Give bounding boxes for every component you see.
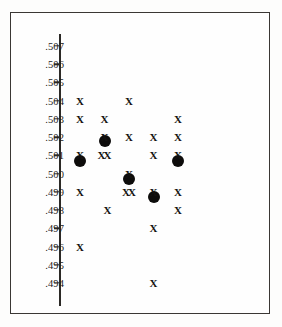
data-point-x-marker: X <box>150 150 158 161</box>
y-axis-tick-mark <box>54 45 60 46</box>
data-point-x-marker: X <box>76 186 84 197</box>
data-point-x-marker: X <box>76 113 84 124</box>
y-axis-tick-mark <box>54 118 60 119</box>
y-axis-tick-mark <box>54 82 60 83</box>
data-point-x-marker: X <box>150 223 158 234</box>
data-point-x-marker: X <box>150 186 158 197</box>
data-point-x-marker: X <box>101 132 109 143</box>
y-axis-tick-mark <box>54 136 60 137</box>
data-point-x-marker: X <box>125 95 133 106</box>
data-point-x-marker: X <box>174 113 182 124</box>
data-point-x-marker: X <box>150 278 158 289</box>
y-axis-tick-mark <box>54 282 60 283</box>
data-point-x-marker: X <box>76 95 84 106</box>
data-point-x-marker: X <box>174 186 182 197</box>
data-point-x-marker: X <box>125 132 133 143</box>
y-axis-tick-mark <box>54 228 60 229</box>
data-point-x-marker: X <box>103 150 111 161</box>
y-axis-tick-mark <box>54 191 60 192</box>
data-point-x-marker: X <box>76 241 84 252</box>
data-point-x-marker: X <box>150 132 158 143</box>
data-point-x-marker: X <box>174 205 182 216</box>
data-point-x-marker: X <box>174 132 182 143</box>
y-axis-tick-mark <box>54 264 60 265</box>
data-point-x-marker: X <box>125 168 133 179</box>
plot-area: .507.506.505.504.503.502.501.500.499.498… <box>0 0 282 327</box>
y-axis-tick-mark <box>54 173 60 174</box>
scatter-plot-figure: .507.506.505.504.503.502.501.500.499.498… <box>0 0 282 327</box>
y-axis-tick-mark <box>54 155 60 156</box>
data-point-x-marker: X <box>76 150 84 161</box>
y-axis-tick-mark <box>54 246 60 247</box>
y-axis-tick-mark <box>54 64 60 65</box>
data-point-x-marker: X <box>103 205 111 216</box>
data-point-x-marker: X <box>101 113 109 124</box>
y-axis-tick-mark <box>54 209 60 210</box>
y-axis-tick-mark <box>54 100 60 101</box>
data-point-x-marker: X <box>174 150 182 161</box>
data-point-x-marker: X <box>128 186 136 197</box>
